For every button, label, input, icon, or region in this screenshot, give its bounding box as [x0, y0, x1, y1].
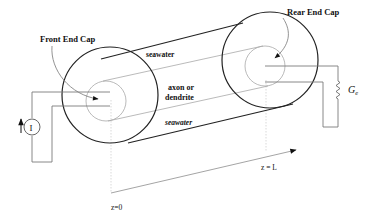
left-circuit-wire-bottom [32, 106, 110, 162]
front-end-cap-label: Front End Cap [40, 34, 95, 44]
conductance-resistor-icon [336, 81, 340, 99]
conductance-label: Ge [348, 84, 358, 96]
current-source-label: I [30, 123, 33, 133]
rear-outer-circle [222, 12, 318, 108]
rear-cap-pointer [275, 18, 288, 58]
front-outer-circle [62, 47, 158, 143]
z-start-label: z=0 [111, 203, 123, 212]
axon-label-line1: axon or [168, 83, 194, 92]
left-circuit-wire-top [32, 92, 110, 118]
right-circuit-wire-bottom [265, 82, 338, 127]
front-cap-pointer [52, 46, 98, 99]
front-inner-circle [86, 81, 126, 121]
seawater-bottom-label: seawater [164, 118, 192, 127]
z-end-label: z = L [261, 163, 277, 172]
right-circuit-wire-top [265, 66, 338, 81]
rear-end-cap-label: Rear End Cap [287, 7, 340, 17]
cable-diagram: I Front End Cap Rear End Cap seawater ax… [0, 0, 372, 220]
axon-label-line2: dendrite [165, 93, 194, 102]
seawater-top-label: seawater [146, 50, 175, 59]
axon-top-line [103, 46, 263, 81]
cylinder-bottom-line [128, 104, 293, 143]
